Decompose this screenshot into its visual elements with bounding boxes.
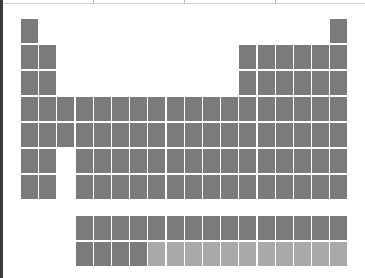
element-cell[interactable] <box>312 123 329 147</box>
element-cell[interactable] <box>330 123 347 147</box>
element-cell[interactable] <box>312 149 329 173</box>
element-cell[interactable] <box>258 149 275 173</box>
element-cell[interactable] <box>276 45 293 69</box>
lanthanide-cell[interactable] <box>185 216 202 240</box>
element-cell[interactable] <box>148 97 165 121</box>
element-cell[interactable] <box>239 175 256 199</box>
element-cell[interactable] <box>112 97 129 121</box>
lanthanide-cell[interactable] <box>258 216 275 240</box>
element-cell[interactable] <box>258 175 275 199</box>
element-cell[interactable] <box>258 97 275 121</box>
element-cell[interactable] <box>130 175 147 199</box>
lanthanide-cell[interactable] <box>221 216 238 240</box>
element-cell[interactable] <box>312 71 329 95</box>
element-cell[interactable] <box>94 123 111 147</box>
element-cell[interactable] <box>203 149 220 173</box>
lanthanide-cell[interactable] <box>148 216 165 240</box>
lanthanide-cell[interactable] <box>94 216 111 240</box>
element-cell[interactable] <box>203 175 220 199</box>
element-cell[interactable] <box>203 97 220 121</box>
element-cell[interactable] <box>76 97 93 121</box>
lanthanide-cell[interactable] <box>330 216 347 240</box>
element-cell[interactable] <box>21 71 38 95</box>
element-cell[interactable] <box>294 123 311 147</box>
element-cell[interactable] <box>148 123 165 147</box>
element-cell[interactable] <box>276 123 293 147</box>
element-cell[interactable] <box>167 149 184 173</box>
element-cell[interactable] <box>57 123 74 147</box>
element-cell[interactable] <box>221 123 238 147</box>
element-cell[interactable] <box>258 45 275 69</box>
lanthanide-cell[interactable] <box>203 216 220 240</box>
element-cell[interactable] <box>21 149 38 173</box>
element-cell[interactable] <box>330 175 347 199</box>
element-cell[interactable] <box>294 97 311 121</box>
element-cell[interactable] <box>294 175 311 199</box>
lanthanide-cell[interactable] <box>76 216 93 240</box>
actinide-cell[interactable] <box>76 242 93 266</box>
element-cell[interactable] <box>76 123 93 147</box>
element-cell[interactable] <box>130 123 147 147</box>
actinide-cell[interactable] <box>312 242 329 266</box>
element-cell[interactable] <box>294 149 311 173</box>
actinide-cell[interactable] <box>167 242 184 266</box>
element-cell[interactable] <box>21 175 38 199</box>
lanthanide-cell[interactable] <box>276 216 293 240</box>
element-cell[interactable] <box>39 97 56 121</box>
element-cell[interactable] <box>76 175 93 199</box>
element-cell[interactable] <box>130 97 147 121</box>
lanthanide-cell[interactable] <box>130 216 147 240</box>
element-cell[interactable] <box>239 97 256 121</box>
element-cell[interactable] <box>112 123 129 147</box>
element-cell[interactable] <box>21 123 38 147</box>
actinide-cell[interactable] <box>294 242 311 266</box>
element-cell[interactable] <box>57 97 74 121</box>
element-cell[interactable] <box>239 45 256 69</box>
element-cell[interactable] <box>167 175 184 199</box>
element-cell[interactable] <box>312 175 329 199</box>
element-cell[interactable] <box>258 123 275 147</box>
element-cell[interactable] <box>167 123 184 147</box>
element-cell[interactable] <box>21 45 38 69</box>
element-cell[interactable] <box>130 149 147 173</box>
lanthanide-cell[interactable] <box>112 216 129 240</box>
element-cell[interactable] <box>76 149 93 173</box>
element-cell[interactable] <box>312 45 329 69</box>
element-cell[interactable] <box>167 97 184 121</box>
element-cell[interactable] <box>276 149 293 173</box>
element-cell[interactable] <box>276 97 293 121</box>
element-cell[interactable] <box>185 149 202 173</box>
actinide-cell[interactable] <box>258 242 275 266</box>
lanthanide-cell[interactable] <box>312 216 329 240</box>
element-cell[interactable] <box>276 175 293 199</box>
actinide-cell[interactable] <box>185 242 202 266</box>
lanthanide-cell[interactable] <box>167 216 184 240</box>
element-cell[interactable] <box>276 71 293 95</box>
element-cell[interactable] <box>294 71 311 95</box>
element-cell[interactable] <box>112 149 129 173</box>
element-cell[interactable] <box>21 97 38 121</box>
element-cell[interactable] <box>330 45 347 69</box>
element-cell[interactable] <box>21 19 38 43</box>
actinide-cell[interactable] <box>239 242 256 266</box>
element-cell[interactable] <box>312 97 329 121</box>
element-cell[interactable] <box>330 71 347 95</box>
actinide-cell[interactable] <box>130 242 147 266</box>
element-cell[interactable] <box>185 123 202 147</box>
element-cell[interactable] <box>94 175 111 199</box>
element-cell[interactable] <box>239 71 256 95</box>
element-cell[interactable] <box>203 123 220 147</box>
element-cell[interactable] <box>330 149 347 173</box>
actinide-cell[interactable] <box>203 242 220 266</box>
element-cell[interactable] <box>148 175 165 199</box>
element-cell[interactable] <box>239 123 256 147</box>
element-cell[interactable] <box>294 45 311 69</box>
element-cell[interactable] <box>148 149 165 173</box>
actinide-cell[interactable] <box>330 242 347 266</box>
lanthanide-cell[interactable] <box>239 216 256 240</box>
actinide-cell[interactable] <box>148 242 165 266</box>
element-cell[interactable] <box>221 149 238 173</box>
element-cell[interactable] <box>258 71 275 95</box>
element-cell[interactable] <box>39 71 56 95</box>
element-cell[interactable] <box>112 175 129 199</box>
